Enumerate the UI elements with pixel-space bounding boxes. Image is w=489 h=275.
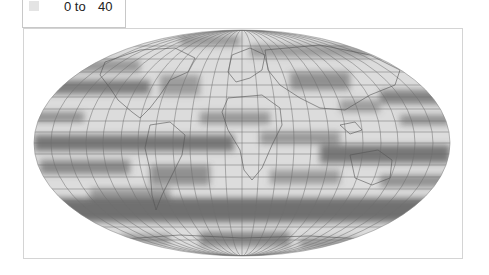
world-map[interactable]	[0, 0, 489, 275]
